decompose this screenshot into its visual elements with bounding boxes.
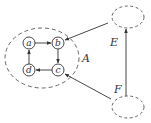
edge-f-to-c <box>65 74 111 99</box>
node-c-label: c <box>55 65 60 75</box>
group-f-ellipse <box>112 96 144 118</box>
node-d-label: d <box>26 65 32 75</box>
edge-e-to-b <box>65 23 108 40</box>
node-b-label: b <box>55 38 61 48</box>
node-a: a <box>23 37 35 49</box>
node-d: d <box>23 64 35 76</box>
node-c: c <box>52 64 64 76</box>
group-a-label: A <box>81 52 90 65</box>
graph-diagram: A E F a b c d <box>0 0 151 123</box>
group-e-ellipse <box>112 6 144 28</box>
node-a-label: a <box>26 38 31 48</box>
group-e-label: E <box>109 36 118 49</box>
node-b: b <box>52 37 64 49</box>
group-f-label: F <box>113 83 122 96</box>
group-a-ellipse <box>5 28 79 88</box>
